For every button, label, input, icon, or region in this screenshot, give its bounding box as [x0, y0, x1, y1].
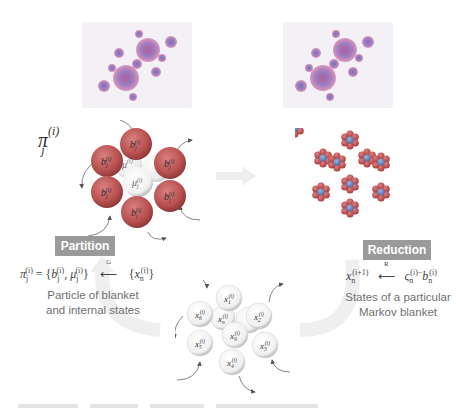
partition-operator-arrow: G ⟵: [92, 267, 126, 282]
partition-caption-line1: Particle of blanket: [38, 288, 148, 303]
reduction-caption-line2: Markov blanket: [340, 305, 456, 320]
partition-caption: Particle of blanket and internal states: [38, 288, 148, 318]
particle-cluster-left: bj(i) bj(i) bj(i) bj(i) bj(i) bj(i) μ(i)…: [70, 120, 200, 245]
reduction-caption-line1: States of a particular: [340, 290, 456, 305]
cycle-arrow-top: [216, 166, 256, 186]
partition-caption-line2: and internal states: [38, 303, 148, 318]
particle-cluster-right: [295, 128, 405, 228]
particle-cluster-bottom: x1(i) x6(i) x2(i) xn(i) x9(i) x5(i) x3(i…: [175, 280, 295, 400]
reduction-label: Reduction: [363, 240, 431, 260]
reduction-formula: xn(i+1) R ⟵ ςn(i)−bn(i): [346, 268, 437, 285]
reduction-operator-arrow: R ⟵: [371, 269, 401, 284]
partition-formula: πj(i) = {bj(i), μj(i)} G ⟵ {xn(i)}: [20, 266, 154, 283]
footer-caption-faint: [18, 404, 318, 408]
pi-sub: j: [41, 143, 44, 157]
pi-sup: (i): [48, 124, 59, 138]
partition-label: Partition: [55, 236, 115, 256]
reduction-caption: States of a particular Markov blanket: [340, 290, 456, 320]
pi-label: π(i)j: [38, 128, 63, 156]
